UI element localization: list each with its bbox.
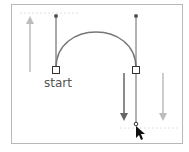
diagram-frame [12,5,183,144]
right-handle-bottom-point[interactable] [134,122,138,126]
bezier-diagram [0,0,189,152]
end-anchor-point[interactable] [133,67,140,74]
start-anchor-point[interactable] [53,67,60,74]
left-handle-point[interactable] [54,14,58,18]
right-handle-top-point[interactable] [134,14,138,18]
start-label: start [44,76,72,90]
